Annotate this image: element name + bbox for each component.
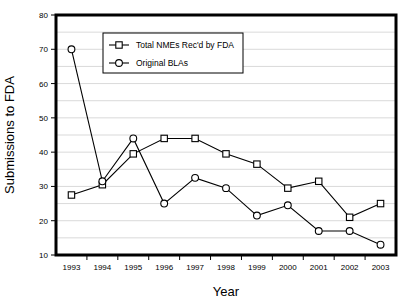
y-tick-label: 10 [39,251,48,260]
y-tick-label: 50 [39,114,48,123]
legend-label: Original BLAs [136,58,188,68]
data-point-square [161,135,167,141]
x-tick-label: 2000 [279,263,297,272]
data-point-circle [130,135,137,142]
x-tick-label: 2003 [372,263,390,272]
x-tick-label: 1998 [217,263,235,272]
data-point-circle [284,202,291,209]
data-point-square [254,161,260,167]
chart-legend: Total NMEs Rec'd by FDAOriginal BLAs [103,33,243,73]
line-chart: 1020304050607080 19931994199519961997199… [0,0,412,303]
data-point-square [377,200,383,206]
y-tick-label: 70 [39,45,48,54]
legend-marker-circle [116,60,123,67]
data-point-circle [99,178,106,185]
y-tick-label: 40 [39,148,48,157]
data-point-square [130,151,136,157]
data-point-square [316,178,322,184]
y-tick-label: 60 [39,80,48,89]
y-tick-label: 30 [39,182,48,191]
chart-container: 1020304050607080 19931994199519961997199… [0,0,412,303]
y-tick-label: 20 [39,217,48,226]
legend-label: Total NMEs Rec'd by FDA [136,40,234,50]
data-point-square [68,192,74,198]
x-tick-label: 2002 [341,263,359,272]
data-point-circle [346,228,353,235]
x-tick-label: 2001 [310,263,328,272]
data-point-circle [192,174,199,181]
x-axis-title: Year [213,284,240,299]
data-point-circle [254,212,261,219]
x-tick-label: 1994 [93,263,111,272]
data-point-square [223,151,229,157]
data-point-circle [377,241,384,248]
data-point-square [346,214,352,220]
legend-marker-square [116,42,122,48]
data-point-circle [161,200,168,207]
data-point-circle [223,185,230,192]
y-tick-label: 80 [39,11,48,20]
x-tick-label: 1995 [124,263,142,272]
x-tick-label: 1996 [155,263,173,272]
data-point-square [285,185,291,191]
x-tick-label: 1997 [186,263,204,272]
y-axis-title: Submissions to FDA [2,76,17,194]
data-point-square [192,135,198,141]
data-point-circle [315,228,322,235]
x-tick-label: 1999 [248,263,266,272]
x-tick-label: 1993 [63,263,81,272]
data-point-circle [68,46,75,53]
